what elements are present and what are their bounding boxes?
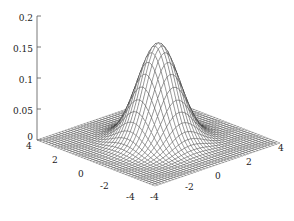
surface-plot-figure: 0.2 0.15 0.1 0.05 0 4 2 0 -2 -4 -4 -2 0 …: [0, 0, 294, 221]
x-tick-label-3: 2: [246, 158, 252, 167]
surface-plot-canvas: [0, 0, 294, 221]
z-tick-label-2: 0.1: [0, 76, 33, 85]
x-tick-label-1: -2: [185, 183, 194, 192]
z-tick-label-1: 0.15: [0, 45, 33, 54]
y-tick-label-2: 0: [78, 170, 84, 179]
x-tick-label-0: -4: [150, 193, 159, 202]
y-tick-label-0: 4: [26, 142, 32, 151]
z-tick-label-3: 0.05: [0, 107, 33, 116]
y-tick-label-4: -4: [126, 193, 135, 202]
gaussian-surface-mesh: [37, 43, 280, 186]
x-tick-label-2: 0: [215, 172, 221, 181]
z-tick-label-0: 0.2: [0, 14, 33, 23]
y-tick-label-1: 2: [52, 156, 58, 165]
x-tick-label-4: 4: [278, 144, 284, 153]
plot-axes: [37, 16, 41, 140]
y-tick-label-3: -2: [100, 182, 109, 191]
